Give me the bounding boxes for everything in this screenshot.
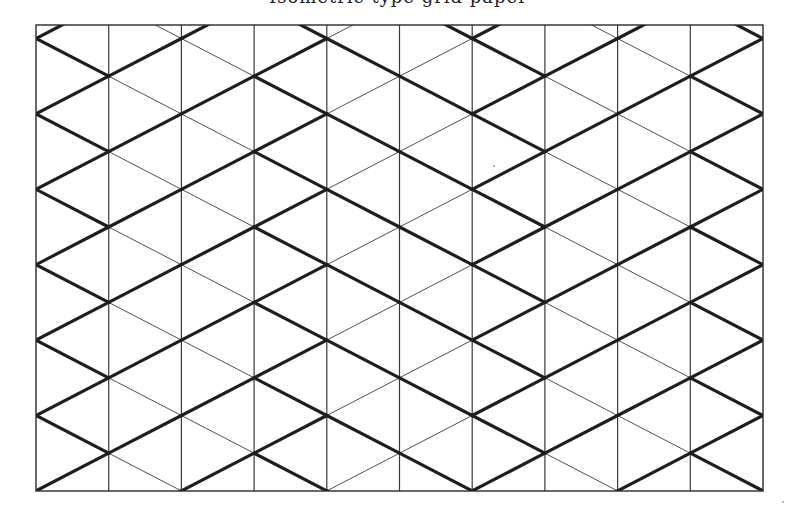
thick-diagonal-line: [36, 416, 109, 454]
thin-diagonal-line: [618, 265, 691, 303]
thin-diagonal-line: [618, 39, 691, 77]
thick-diagonal-line: [36, 189, 109, 227]
thick-diagonal-line: [690, 453, 763, 491]
thin-diagonal-line: [327, 453, 400, 491]
thick-diagonal-line: [690, 227, 763, 265]
thin-diagonal-line: [400, 39, 473, 77]
thick-diagonal-line: [109, 189, 182, 227]
thin-diagonal-line: [109, 227, 182, 265]
thick-diagonal-line: [254, 340, 327, 378]
thick-diagonal-line: [254, 189, 327, 227]
thick-diagonal-line: [545, 491, 618, 519]
thin-diagonal-line: [618, 114, 691, 152]
thick-diagonal-line: [690, 39, 763, 77]
thick-diagonal-line: [327, 416, 400, 454]
thick-diagonal-line: [109, 114, 182, 152]
thin-diagonal-line: [327, 1, 400, 39]
thick-diagonal-line: [472, 453, 545, 491]
thin-diagonal-line: [545, 378, 618, 416]
thin-diagonal-line: [618, 491, 691, 519]
thick-diagonal-line: [36, 114, 109, 152]
thick-diagonal-line: [618, 453, 691, 491]
thick-diagonal-line: [181, 302, 254, 340]
thick-diagonal-line: [545, 340, 618, 378]
thick-diagonal-line: [109, 0, 182, 1]
thin-diagonal-line: [545, 1, 618, 39]
thick-diagonal-line: [618, 1, 691, 39]
thick-diagonal-line: [400, 227, 473, 265]
thick-diagonal-line: [254, 302, 327, 340]
thick-diagonal-line: [690, 416, 763, 454]
thick-diagonal-line: [109, 265, 182, 303]
thin-diagonal-line: [327, 76, 400, 114]
thin-diagonal-line: [181, 114, 254, 152]
thick-diagonal-line: [472, 416, 545, 454]
thin-diagonal-line: [109, 378, 182, 416]
thick-diagonal-line: [690, 152, 763, 190]
thin-diagonal-line: [181, 189, 254, 227]
thick-diagonal-line: [690, 265, 763, 303]
thin-diagonal-line: [545, 227, 618, 265]
thick-diagonal-line: [36, 302, 109, 340]
thin-diagonal-line: [618, 340, 691, 378]
thin-diagonal-line: [181, 491, 254, 519]
thick-diagonal-line: [254, 453, 327, 491]
thin-diagonal-line: [400, 0, 473, 1]
thick-diagonal-line: [327, 189, 400, 227]
thin-diagonal-line: [327, 302, 400, 340]
thick-diagonal-line: [327, 340, 400, 378]
thick-diagonal-line: [327, 0, 400, 1]
thin-diagonal-line: [181, 39, 254, 77]
thick-diagonal-line: [545, 416, 618, 454]
thick-diagonal-line: [327, 491, 400, 519]
thick-diagonal-line: [109, 416, 182, 454]
thick-diagonal-line: [690, 0, 763, 1]
thick-diagonal-line: [254, 0, 327, 1]
thick-diagonal-line: [181, 152, 254, 190]
thick-diagonal-line: [181, 453, 254, 491]
thick-diagonal-line: [472, 227, 545, 265]
thick-diagonal-line: [254, 152, 327, 190]
thick-diagonal-line: [690, 189, 763, 227]
thick-diagonal-line: [36, 0, 109, 1]
thin-diagonal-line: [618, 416, 691, 454]
thick-diagonal-line: [36, 265, 109, 303]
thick-diagonal-line: [400, 378, 473, 416]
thick-diagonal-line: [254, 416, 327, 454]
thick-diagonal-line: [690, 378, 763, 416]
thin-diagonal-line: [400, 265, 473, 303]
thick-diagonal-line: [690, 302, 763, 340]
thick-diagonal-line: [545, 0, 618, 1]
thick-diagonal-line: [254, 227, 327, 265]
thin-diagonal-line: [618, 0, 691, 1]
thin-diagonal-line: [545, 453, 618, 491]
thick-diagonal-line: [472, 152, 545, 190]
thick-diagonal-line: [472, 491, 545, 519]
thick-diagonal-line: [690, 114, 763, 152]
thick-diagonal-line: [254, 1, 327, 39]
thin-diagonal-line: [109, 76, 182, 114]
thick-diagonal-line: [36, 491, 109, 519]
thin-diagonal-line: [545, 76, 618, 114]
thick-diagonal-line: [545, 114, 618, 152]
thin-diagonal-line: [181, 0, 254, 1]
thick-diagonal-line: [618, 152, 691, 190]
thick-diagonal-line: [690, 76, 763, 114]
thick-diagonal-line: [472, 39, 545, 77]
thick-diagonal-line: [618, 227, 691, 265]
thick-diagonal-line: [545, 265, 618, 303]
thick-diagonal-line: [400, 302, 473, 340]
thin-diagonal-line: [181, 340, 254, 378]
thick-diagonal-line: [472, 302, 545, 340]
thick-diagonal-line: [109, 340, 182, 378]
thick-diagonal-line: [36, 152, 109, 190]
thick-diagonal-line: [472, 378, 545, 416]
thick-diagonal-line: [400, 1, 473, 39]
thick-diagonal-line: [36, 378, 109, 416]
thick-diagonal-line: [181, 76, 254, 114]
paper-speck: [493, 165, 495, 167]
thick-diagonal-line: [327, 114, 400, 152]
thick-diagonal-line: [618, 302, 691, 340]
thick-diagonal-line: [545, 189, 618, 227]
thick-diagonal-line: [400, 76, 473, 114]
